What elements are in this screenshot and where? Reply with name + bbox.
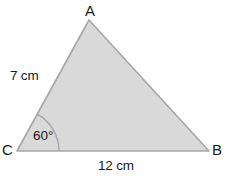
angle-measure-label-c: 60° — [33, 129, 53, 143]
vertex-label-b: B — [212, 142, 222, 157]
side-length-label-cb: 12 cm — [98, 159, 134, 173]
vertex-label-a: A — [85, 3, 95, 18]
vertex-label-c: C — [2, 142, 13, 157]
triangle-figure — [0, 0, 228, 179]
side-length-label-ca: 7 cm — [10, 69, 38, 83]
